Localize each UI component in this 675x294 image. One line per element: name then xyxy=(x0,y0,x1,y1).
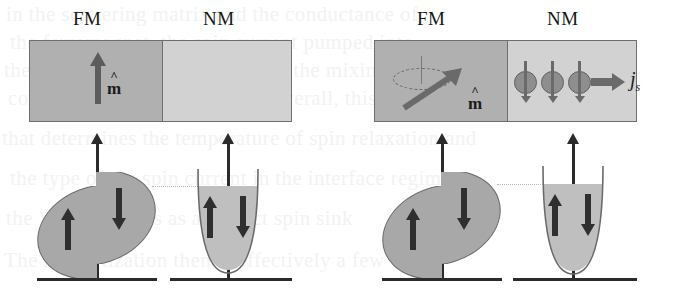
panel-equilibrium: FM NM ^ m xyxy=(0,0,330,294)
fm-dos-spin-down-band xyxy=(441,172,503,264)
spin-current-subscript: s xyxy=(636,80,641,94)
magnetization-symbol: m xyxy=(468,95,482,112)
nm-dos-axis-arrowhead xyxy=(222,133,234,144)
spin-current-label: js xyxy=(630,68,640,95)
nm-dos-axis-arrowhead xyxy=(567,133,579,144)
fm-dos-spin-down-arrow xyxy=(112,188,126,230)
fm-dos-axis-arrowhead xyxy=(436,133,448,144)
fm-dos-axis-arrowhead xyxy=(91,133,103,144)
fm-label: FM xyxy=(417,8,445,30)
nm-slab xyxy=(162,40,292,122)
nm-dos-spin-up-arrow xyxy=(203,196,217,238)
spin-current-arrow xyxy=(591,73,626,91)
fm-dos-baseline xyxy=(382,278,502,281)
magnetization-label: ^ m xyxy=(107,73,121,97)
nm-label: NM xyxy=(203,8,235,30)
magnetization-symbol: m xyxy=(107,80,121,97)
panel-spin-pumping: FM NM ^ m xyxy=(345,0,675,294)
magnetization-label: ^ m xyxy=(468,88,482,112)
spin-pumping-figure: in the scattering matrix and the conduct… xyxy=(0,0,675,294)
spin-carrier-arrow-down xyxy=(574,61,585,105)
nm-dos-spin-down-arrow xyxy=(236,196,250,238)
nm-dos-spin-down-arrow xyxy=(581,194,595,236)
nm-label: NM xyxy=(547,8,579,30)
magnetization-arrow-tilted xyxy=(398,62,470,112)
nm-dos-spin-up-arrow xyxy=(548,194,562,236)
fm-dos-spin-up-arrow xyxy=(61,208,75,250)
fm-dos-spin-up-arrow xyxy=(406,208,420,250)
spin-carrier-arrow-down xyxy=(520,61,531,105)
fm-label: FM xyxy=(73,8,101,30)
fm-dos-baseline xyxy=(37,278,157,281)
fm-dos-spin-down-band xyxy=(96,172,158,264)
fm-dos-spin-down-arrow xyxy=(457,188,471,230)
magnetization-arrow-up xyxy=(90,52,106,104)
spin-carrier-arrow-down xyxy=(547,61,558,105)
